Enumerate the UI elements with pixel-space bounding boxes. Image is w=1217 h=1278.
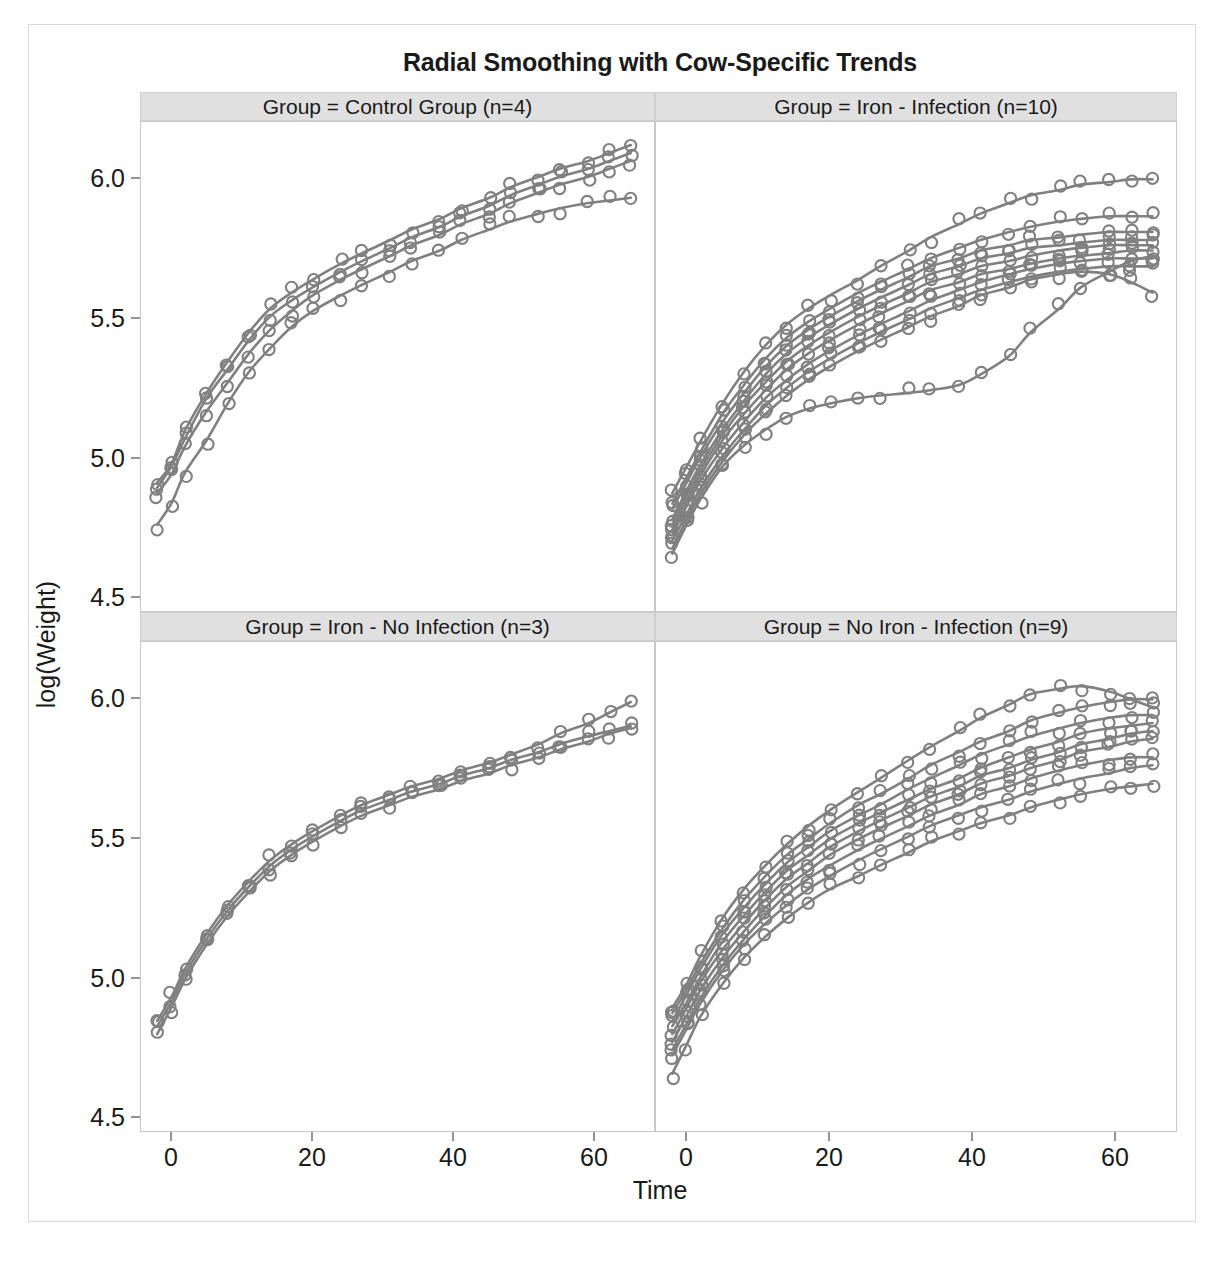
ytick-label-6.0-bottom: 6.0 [55, 684, 125, 713]
xtick-label-60-right: 60 [1085, 1143, 1145, 1172]
data-point-marker [1076, 757, 1087, 768]
trend-line [157, 145, 631, 482]
data-point-marker [263, 849, 274, 860]
chart-title: Radial Smoothing with Cow-Specific Trend… [140, 48, 1180, 77]
trend-line [157, 726, 631, 1026]
ytick-label-5.0-top: 5.0 [55, 444, 125, 473]
panel-header-label: Group = No Iron - Infection (n=9) [764, 615, 1069, 639]
panel-plot-bottom-left [140, 641, 655, 1132]
xtick-label-40-right: 40 [942, 1143, 1002, 1172]
ytick-label-5.0-bottom: 5.0 [55, 964, 125, 993]
data-point-marker [150, 492, 161, 503]
y-axis-title: log(Weight) [32, 515, 61, 775]
panel-plot-top-left [140, 121, 655, 612]
data-point-marker [926, 237, 937, 248]
panel-header-bottom-left: Group = Iron - No Infection (n=3) [140, 612, 655, 641]
panel-plot-top-right [655, 121, 1177, 612]
data-point-marker [1105, 781, 1116, 792]
xtick-label-40-left: 40 [423, 1143, 483, 1172]
ytick-label-4.5-bottom: 4.5 [55, 1103, 125, 1132]
ytick-label-5.5-top: 5.5 [55, 304, 125, 333]
data-point-marker [668, 1073, 679, 1084]
panel-plot-svg-top-right [656, 122, 1176, 611]
trend-line [672, 216, 1152, 504]
panel-plot-bottom-right [655, 641, 1177, 1132]
xtick-label-60-left: 60 [564, 1143, 624, 1172]
panel-plot-svg-bottom-left [141, 642, 654, 1131]
data-point-marker [1125, 783, 1136, 794]
trend-line [157, 161, 631, 493]
data-point-marker [953, 213, 964, 224]
x-axis-title: Time [140, 1176, 1180, 1205]
data-point-marker [555, 208, 566, 219]
ytick-label-6.0-top: 6.0 [55, 164, 125, 193]
panel-plot-svg-top-left [141, 122, 654, 611]
panel-plot-svg-bottom-right [656, 642, 1176, 1131]
ytick-label-4.5-top: 4.5 [55, 583, 125, 612]
panel-header-label: Group = Iron - No Infection (n=3) [245, 615, 550, 639]
xtick-label-20-right: 20 [799, 1143, 859, 1172]
xtick-label-0-left: 0 [141, 1143, 201, 1172]
data-point-marker [1126, 176, 1137, 187]
trend-line [157, 153, 631, 488]
ytick-label-5.5-bottom: 5.5 [55, 824, 125, 853]
xtick-label-20-left: 20 [282, 1143, 342, 1172]
trend-line [672, 272, 1152, 549]
data-point-marker [1103, 174, 1114, 185]
data-point-marker [1148, 781, 1159, 792]
xtick-label-0-right: 0 [656, 1143, 716, 1172]
panel-header-label: Group = Control Group (n=4) [263, 95, 533, 119]
trend-line [157, 728, 631, 1034]
panel-header-bottom-right: Group = No Iron - Infection (n=9) [655, 612, 1177, 641]
panel-header-top-left: Group = Control Group (n=4) [140, 92, 655, 121]
data-point-marker [504, 211, 515, 222]
data-point-marker [1126, 712, 1137, 723]
panel-header-label: Group = Iron - Infection (n=10) [774, 95, 1058, 119]
figure-root: Radial Smoothing with Cow-Specific Trend… [0, 0, 1217, 1278]
panel-header-top-right: Group = Iron - Infection (n=10) [655, 92, 1177, 121]
